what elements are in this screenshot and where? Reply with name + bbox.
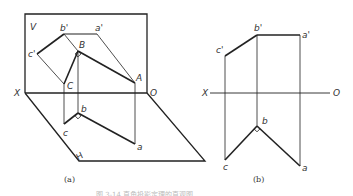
line-c-prime-b-prime-b — [225, 35, 257, 56]
figure-b — [210, 35, 330, 166]
label-a-prime-a: a' — [95, 23, 103, 33]
label-o-a: O — [150, 88, 157, 98]
label-a-prime-b: a' — [302, 30, 310, 40]
label-x-b: X — [201, 88, 209, 98]
diagram-canvas: V X O b' a' c' B A C b c a H (a) X O c' … — [0, 0, 353, 196]
label-x-a: X — [13, 88, 21, 98]
label-c-prime-a: c' — [28, 49, 35, 59]
h-plane-frame — [25, 93, 205, 161]
line-b-c — [64, 113, 78, 124]
line-b-a — [78, 113, 135, 144]
label-C: C — [67, 81, 74, 91]
line-B-A — [78, 51, 135, 83]
line-b-c-b — [225, 126, 257, 160]
label-a-b: a — [302, 163, 308, 173]
caption-a: (a) — [64, 175, 75, 184]
line-c-prime-C — [37, 54, 64, 84]
figure-a-labels: V X O b' a' c' B A C b c a H (a) — [13, 22, 157, 184]
caption-b: (b) — [253, 175, 264, 184]
label-c-a: c — [63, 128, 68, 138]
label-b-prime-a: b' — [60, 23, 68, 33]
label-B: B — [79, 40, 85, 50]
label-c-b: c — [223, 162, 228, 172]
line-c-prime-b-prime — [37, 34, 64, 54]
label-b-prime-b: b' — [254, 23, 262, 33]
figure-b-labels: X O c' b' a' b c a (b) — [201, 23, 340, 184]
label-a-a: a — [137, 142, 143, 152]
line-a-prime-A — [97, 34, 135, 83]
label-b-b: b — [262, 116, 268, 126]
label-A: A — [135, 73, 142, 83]
line-B-C — [64, 51, 78, 84]
label-b-a: b — [81, 104, 87, 114]
line-b-prime-B — [64, 34, 78, 51]
figure-caption: 图 3-14 直角投影定理的直观图 — [96, 190, 193, 196]
v-plane-frame — [25, 14, 147, 93]
label-v-plane: V — [30, 22, 37, 32]
figure-a — [25, 14, 205, 161]
line-b-a-b — [257, 126, 300, 166]
label-c-prime-b: c' — [216, 45, 223, 55]
label-o-b: O — [333, 88, 340, 98]
